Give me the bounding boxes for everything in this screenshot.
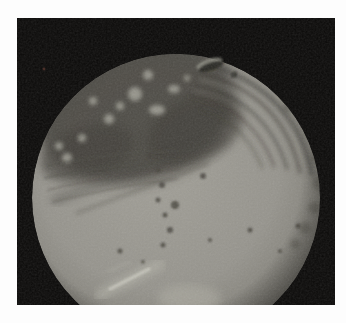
film-grain-overlay — [17, 18, 335, 305]
page — [0, 0, 346, 323]
photo-frame — [17, 18, 335, 305]
moon-photo — [17, 18, 335, 305]
